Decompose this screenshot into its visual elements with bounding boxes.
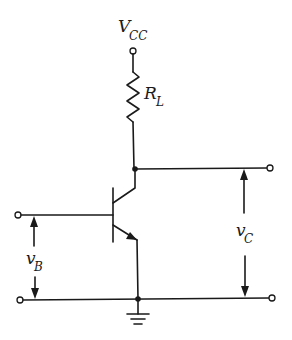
vc-up-arrow-icon: [240, 169, 248, 180]
vc-down-arrow-icon: [241, 286, 249, 297]
common-bottom-wire: [23, 298, 269, 300]
circuit-diagram: V CC R L: [0, 0, 292, 340]
ground-icon: [127, 299, 149, 324]
rl-label: R L: [143, 83, 164, 109]
output-bottom-terminal: [269, 295, 275, 301]
vcc-label-sub: CC: [129, 29, 147, 43]
emitter-arrow-icon: [126, 232, 137, 240]
emitter-wire: [137, 240, 138, 299]
vc-label-sub: C: [244, 232, 253, 246]
collector-supply-wire: [133, 122, 134, 169]
vb-indicator: v B: [26, 216, 43, 299]
input-top-terminal: [15, 212, 21, 218]
load-resistor: [127, 72, 139, 122]
rl-label-sub: L: [155, 95, 164, 109]
vb-label-sub: B: [33, 260, 43, 274]
vcc-terminal: [130, 48, 136, 54]
rl-label-main: R: [143, 83, 157, 103]
vcc-label: V CC: [118, 16, 147, 43]
vc-indicator: v C: [236, 169, 253, 297]
vb-down-arrow-icon: [31, 288, 39, 299]
collector-lead: [113, 169, 135, 203]
input-bottom-terminal: [17, 297, 23, 303]
output-top-terminal: [267, 165, 273, 171]
vb-up-arrow-icon: [30, 216, 38, 227]
output-top-wire: [135, 168, 267, 169]
npn-transistor: [113, 169, 138, 299]
